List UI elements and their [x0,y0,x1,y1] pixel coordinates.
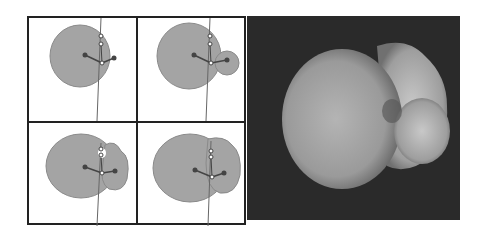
panel-bottom-right [138,123,245,226]
density-render [247,16,460,220]
panel-top-left [29,18,136,121]
panel-grid [27,16,246,225]
panel-top-right [138,18,245,121]
panel-bottom-left [29,123,136,226]
grid-divider-horizontal [29,121,244,123]
